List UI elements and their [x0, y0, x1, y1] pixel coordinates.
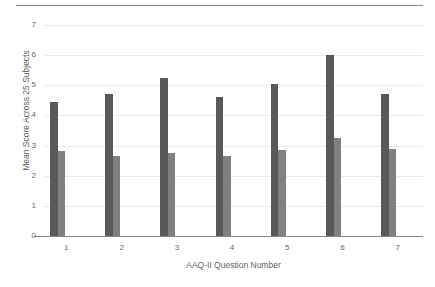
gridline — [44, 115, 423, 116]
x-tick-label: 5 — [272, 244, 302, 252]
bar-chart-figure: 01234567 1234567 Mean Score Across 25 Su… — [0, 0, 435, 287]
bar — [334, 138, 342, 236]
bar — [58, 151, 66, 236]
bar — [50, 102, 58, 236]
y-tick-label: 1 — [10, 202, 36, 210]
x-tick-label: 3 — [162, 244, 192, 252]
gridline — [44, 176, 423, 177]
bar — [278, 150, 286, 236]
bar — [105, 94, 113, 236]
bar — [326, 55, 334, 236]
bar — [381, 94, 389, 236]
gridline — [44, 146, 423, 147]
x-axis-title: AAQ-II Question Number — [44, 261, 423, 270]
y-tick-label: 0 — [10, 232, 36, 240]
x-tick-label: 2 — [107, 244, 137, 252]
x-tick-label: 4 — [217, 244, 247, 252]
bar — [216, 97, 224, 236]
x-tick-label: 7 — [383, 244, 413, 252]
bar — [271, 84, 279, 236]
y-axis-title: Mean Score Across 25 Subjects — [22, 26, 31, 196]
gridline — [44, 206, 423, 207]
bar — [160, 78, 168, 236]
bar — [223, 156, 231, 236]
bar — [389, 149, 397, 236]
bar — [168, 153, 176, 236]
bar — [113, 156, 121, 236]
x-axis-line — [34, 236, 423, 237]
gridline — [44, 55, 423, 56]
plot-area — [44, 25, 423, 236]
x-tick-label: 1 — [52, 244, 82, 252]
gridline — [44, 25, 423, 26]
gridline — [44, 85, 423, 86]
x-tick-label: 6 — [328, 244, 358, 252]
figure-top-rule — [16, 5, 423, 6]
